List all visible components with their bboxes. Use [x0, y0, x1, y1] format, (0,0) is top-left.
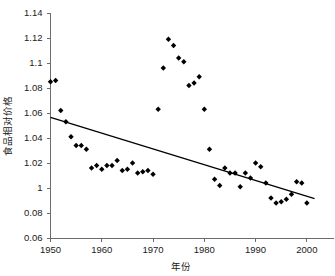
axes-group	[51, 13, 335, 238]
y-tick-label: 0.08	[24, 207, 43, 218]
data-point	[145, 168, 150, 173]
data-point	[212, 177, 217, 182]
data-point	[258, 164, 263, 169]
data-point	[135, 170, 140, 175]
data-point	[171, 43, 176, 48]
y-tick-labels-group: 1.141.121.11.081.061.041.0210.080.06	[24, 7, 43, 243]
data-point	[104, 163, 109, 168]
data-point	[99, 167, 104, 172]
data-point	[176, 55, 181, 60]
y-tick-label: 1.14	[24, 7, 43, 18]
data-point	[79, 143, 84, 148]
x-tick-label: 2000	[296, 244, 317, 255]
data-point	[186, 83, 191, 88]
y-tick-label: 1.12	[24, 32, 43, 43]
y-tick-label: 1.1	[29, 57, 42, 68]
data-point	[109, 163, 114, 168]
y-tick-label: 1.02	[24, 157, 43, 168]
data-point	[273, 200, 278, 205]
y-tick-label: 0.06	[24, 232, 43, 243]
data-point	[217, 183, 222, 188]
data-point	[304, 200, 309, 205]
y-tick-label: 1.08	[24, 82, 43, 93]
data-point	[68, 134, 73, 139]
data-point	[114, 158, 119, 163]
y-tick-label: 1.06	[24, 107, 43, 118]
data-point	[299, 180, 304, 185]
data-point	[279, 199, 284, 204]
data-point	[207, 147, 212, 152]
x-tick-label: 1970	[142, 244, 163, 255]
x-tick-label: 1950	[40, 244, 61, 255]
data-point	[161, 65, 166, 70]
x-tick-label: 1980	[194, 244, 215, 255]
data-point	[196, 74, 201, 79]
data-point	[48, 79, 53, 84]
data-point	[73, 143, 78, 148]
data-point	[294, 179, 299, 184]
data-point	[150, 172, 155, 177]
data-point	[94, 163, 99, 168]
data-point	[53, 78, 58, 83]
data-point	[202, 107, 207, 112]
x-tick-label: 1960	[91, 244, 112, 255]
chart-container: 1.141.121.11.081.061.041.0210.080.06 195…	[0, 0, 335, 276]
x-tick-labels-group: 195019601970198019902000	[40, 244, 318, 255]
data-point	[84, 147, 89, 152]
data-point	[140, 169, 145, 174]
data-point	[253, 160, 258, 165]
x-tick-label: 1990	[245, 244, 266, 255]
data-point	[120, 168, 125, 173]
trend-line	[51, 117, 315, 198]
y-tick-label: 1.04	[24, 132, 43, 143]
y-axis-title: 食品相对价格	[2, 96, 13, 156]
data-point	[89, 165, 94, 170]
scatter-plot: 1.141.121.11.081.061.041.0210.080.06 195…	[0, 0, 335, 276]
data-point	[284, 197, 289, 202]
data-point	[268, 195, 273, 200]
data-point	[243, 170, 248, 175]
data-point	[125, 167, 130, 172]
data-point	[238, 184, 243, 189]
data-point	[155, 107, 160, 112]
data-points-group	[48, 37, 310, 206]
data-point	[181, 59, 186, 64]
x-axis-title: 年份	[171, 261, 191, 272]
data-point	[130, 160, 135, 165]
data-point	[191, 80, 196, 85]
data-point	[58, 108, 63, 113]
y-tick-label: 1	[37, 182, 42, 193]
trend-line-group	[51, 117, 315, 198]
data-point	[166, 37, 171, 42]
